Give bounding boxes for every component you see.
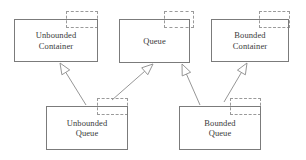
node-label-unbounded-queue: Unbounded Queue [65, 118, 110, 139]
generalization-arrowhead-icon [237, 63, 247, 75]
generalization-arrowhead-icon [60, 63, 70, 75]
edge-line-unbounded-queue-to-unbounded-container [66, 72, 86, 105]
node-label-bounded-queue: Bounded Queue [202, 118, 237, 139]
node-label-unbounded-container: Unbounded Container [34, 30, 79, 51]
node-box-bounded-queue[interactable]: Bounded Queue [179, 106, 261, 150]
edge-line-bounded-queue-to-queue [186, 74, 200, 105]
uml-diagram-canvas: Unbounded ContainerQueueBounded Containe… [0, 0, 306, 160]
generalization-arrowhead-icon [182, 64, 191, 76]
node-box-bounded-container[interactable]: Bounded Container [211, 19, 289, 62]
edge-unbounded-queue-to-unbounded-container [60, 63, 86, 105]
edge-line-unbounded-queue-to-queue [112, 71, 145, 100]
edge-bounded-queue-to-queue [182, 64, 200, 105]
node-box-queue[interactable]: Queue [119, 19, 190, 63]
node-box-unbounded-queue[interactable]: Unbounded Queue [46, 106, 128, 150]
node-label-queue: Queue [141, 36, 168, 47]
node-label-bounded-container: Bounded Container [231, 30, 269, 51]
generalization-arrowhead-icon [142, 64, 153, 75]
edge-bounded-queue-to-bounded-container [224, 63, 247, 102]
node-box-unbounded-container[interactable]: Unbounded Container [14, 19, 98, 62]
edge-unbounded-queue-to-queue [112, 64, 153, 100]
